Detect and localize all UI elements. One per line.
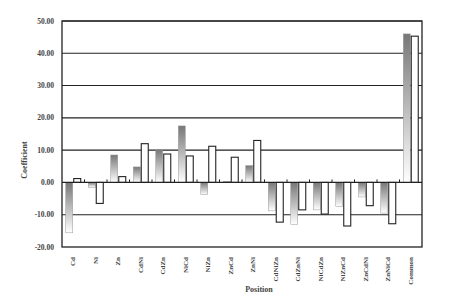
bar-series-2: [209, 146, 216, 182]
y-tick-label: 30.00: [37, 81, 54, 90]
x-category-label: ZnCd: [227, 257, 235, 275]
bar-series-1: [201, 182, 208, 194]
y-axis-label: Coefficient: [20, 141, 29, 179]
x-category-label: Common: [407, 257, 415, 285]
bar-series-1: [88, 182, 95, 187]
bar-series-2: [96, 182, 103, 203]
bar-chart: 50.0040.0030.0020.0010.000.00-10.00-20.0…: [0, 0, 475, 308]
x-category-label: ZnNiCd: [384, 257, 392, 282]
bar-series-1: [66, 182, 73, 232]
bar-series-2: [411, 36, 418, 182]
bar-series-2: [276, 182, 283, 222]
bar-series-2: [141, 144, 148, 183]
bar-series-1: [268, 182, 275, 210]
x-category-label: Zn: [114, 257, 122, 266]
x-category-label: CdZn: [159, 257, 167, 275]
y-tick-label: 0.00: [41, 178, 54, 187]
bar-series-1: [291, 182, 298, 224]
bar-series-2: [321, 182, 328, 214]
bar-series-1: [246, 166, 253, 183]
x-category-label: Cd: [69, 257, 77, 266]
bar-series-2: [164, 154, 171, 182]
x-category-label: CdNi: [137, 257, 145, 273]
x-category-label: Ni: [92, 257, 100, 264]
bar-series-1: [336, 182, 343, 206]
bar-series-1: [381, 182, 388, 213]
bar-series-1: [313, 182, 320, 209]
y-tick-label: 10.00: [37, 146, 54, 155]
bar-series-2: [119, 177, 126, 183]
x-category-label: NiZnCd: [339, 257, 347, 282]
y-tick-label: 40.00: [37, 49, 54, 58]
x-category-label: CdNiZn: [272, 257, 280, 282]
bar-series-1: [133, 167, 140, 182]
bar-series: [66, 34, 419, 233]
x-category-label: CdZnNi: [294, 257, 302, 282]
y-tick-label: -10.00: [35, 210, 55, 219]
x-category-label: NiCdZn: [317, 257, 325, 282]
x-axis-categories: CdNiZnCdNiCdZnNiCdNiZnZnCdZnNiCdNiZnCdZn…: [69, 257, 415, 285]
bar-series-2: [186, 156, 193, 182]
x-category-label: NiZn: [204, 257, 212, 273]
bar-series-1: [403, 34, 410, 183]
bar-series-2: [366, 182, 373, 205]
bar-series-2: [231, 157, 238, 182]
y-axis-ticks: 50.0040.0030.0020.0010.000.00-10.00-20.0…: [35, 17, 55, 252]
bar-series-1: [111, 155, 118, 182]
plot-frame: [62, 21, 422, 247]
bar-series-1: [156, 149, 163, 182]
x-category-label: ZnCdNi: [362, 257, 370, 282]
y-tick-label: -20.00: [35, 243, 55, 252]
bar-series-1: [358, 182, 365, 197]
bar-series-2: [389, 182, 396, 223]
x-category-label: ZnNi: [249, 257, 257, 273]
bar-series-2: [344, 182, 351, 226]
x-category-label: NiCd: [182, 257, 190, 273]
y-tick-label: 20.00: [37, 113, 54, 122]
bar-series-1: [178, 126, 185, 183]
x-axis-label: Position: [245, 285, 273, 294]
bar-series-2: [299, 182, 306, 209]
bar-series-2: [254, 140, 261, 182]
axes: [62, 21, 422, 247]
y-tick-label: 50.00: [37, 17, 54, 26]
